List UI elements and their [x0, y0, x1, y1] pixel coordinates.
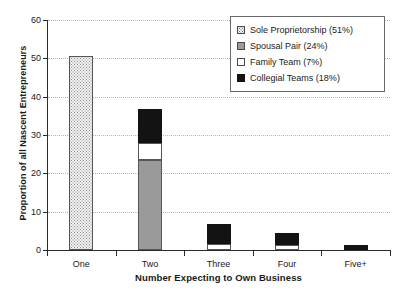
legend-swatch-icon — [237, 58, 245, 66]
y-tick-mark — [43, 97, 47, 98]
y-tick-mark — [43, 20, 47, 21]
legend-label: Family Team (7%) — [250, 58, 322, 67]
x-tick-mark-0 — [47, 251, 48, 256]
x-axis-line — [47, 250, 391, 251]
legend-swatch-icon — [237, 42, 245, 50]
y-tick-label: 0 — [36, 245, 41, 255]
y-tick-mark — [43, 135, 47, 136]
y-tick-label: 60 — [31, 15, 41, 25]
y-tick-mark — [43, 58, 47, 59]
x-tick-label-three: Three — [207, 259, 231, 269]
x-axis-title: Number Expecting to Own Business — [47, 272, 390, 283]
x-tick-mark-2 — [184, 251, 185, 256]
bar-segment-family-four[interactable] — [275, 245, 299, 250]
legend-item-sole-proprietorship[interactable]: Sole Proprietorship (51%) — [237, 22, 378, 38]
bar-segment-sole-one[interactable] — [69, 56, 93, 250]
legend-item-collegial-teams[interactable]: Collegial Teams (18%) — [237, 70, 378, 86]
y-tick-label: 50 — [31, 53, 41, 63]
x-tick-label-two: Two — [142, 259, 159, 269]
y-tick-mark — [43, 212, 47, 213]
x-tick-label-one: One — [73, 259, 90, 269]
legend-label: Collegial Teams (18%) — [250, 74, 340, 83]
x-tick-label-five-plus: Five+ — [345, 259, 367, 269]
x-tick-mark-3 — [253, 251, 254, 256]
y-tick-label: 40 — [31, 92, 41, 102]
x-tick-mark-4 — [321, 251, 322, 256]
y-tick-label: 20 — [31, 168, 41, 178]
legend-swatch-icon — [237, 26, 245, 34]
bar-group-two[interactable] — [138, 20, 162, 250]
legend-item-family-team[interactable]: Family Team (7%) — [237, 54, 378, 70]
x-tick-mark-5 — [390, 251, 391, 256]
x-tick-mark-1 — [116, 251, 117, 256]
bar-segment-family-two[interactable] — [138, 143, 162, 160]
bar-segment-collegial-two[interactable] — [138, 109, 162, 143]
legend-label: Sole Proprietorship (51%) — [250, 26, 353, 35]
bar-segment-spousal-two[interactable] — [138, 160, 162, 250]
bar-segment-collegial-five-plus[interactable] — [344, 245, 368, 250]
y-tick-mark — [43, 173, 47, 174]
y-tick-label: 10 — [31, 207, 41, 217]
y-axis-title: Proportion of all Nascent Entrepreneurs — [18, 13, 28, 253]
bar-segment-collegial-four[interactable] — [275, 233, 299, 245]
bar-group-three[interactable] — [207, 20, 231, 250]
x-tick-label-four: Four — [278, 259, 297, 269]
bar-segment-family-three[interactable] — [207, 244, 231, 250]
bar-segment-collegial-three[interactable] — [207, 224, 231, 245]
bar-chart-figure: Proportion of all Nascent Entrepreneurs … — [0, 0, 399, 301]
y-tick-label: 30 — [31, 130, 41, 140]
bar-group-one[interactable] — [69, 20, 93, 250]
legend-item-spousal-pair[interactable]: Spousal Pair (24%) — [237, 38, 378, 54]
legend: Sole Proprietorship (51%) Spousal Pair (… — [230, 16, 385, 92]
legend-swatch-icon — [237, 74, 245, 82]
legend-label: Spousal Pair (24%) — [250, 42, 328, 51]
